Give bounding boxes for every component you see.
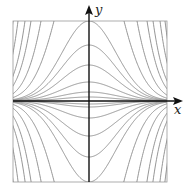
solution-curve [11, 103, 169, 194]
solution-curve [11, 132, 169, 194]
solution-curve [11, 21, 169, 100]
solution-curve-family [11, 0, 169, 194]
solution-curves-diagram: x y [0, 0, 185, 194]
y-axis-label: y [94, 2, 103, 17]
solution-curve [11, 0, 169, 49]
solution-curve [11, 106, 169, 194]
solution-curve [11, 153, 169, 194]
solution-curve [11, 117, 169, 194]
solution-curve [11, 102, 169, 182]
solution-curve [11, 82, 169, 101]
x-axis-label: x [174, 102, 182, 117]
